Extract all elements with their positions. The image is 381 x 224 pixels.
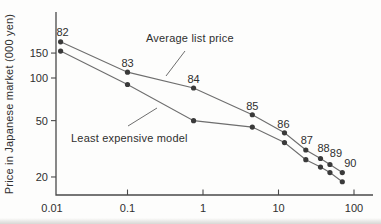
year-label-85: 85 bbox=[246, 100, 258, 112]
x-tick-label: 1 bbox=[200, 202, 206, 214]
data-point-82-average bbox=[58, 39, 63, 44]
year-label-87: 87 bbox=[301, 134, 313, 146]
series-line-average-list-price bbox=[61, 42, 343, 173]
leader-average-list-price bbox=[166, 51, 185, 76]
x-tick-label: 10 bbox=[272, 202, 284, 214]
year-label-90: 90 bbox=[344, 157, 356, 169]
data-point-90-least bbox=[340, 179, 345, 184]
data-point-85-least bbox=[250, 125, 255, 130]
data-point-90-average bbox=[340, 170, 345, 175]
x-tick-label: 0.1 bbox=[120, 202, 135, 214]
data-point-88-average bbox=[318, 156, 323, 161]
data-point-86-average bbox=[282, 130, 287, 135]
x-tick-label: 100 bbox=[345, 202, 363, 214]
x-tick-label: 0.01 bbox=[41, 202, 62, 214]
data-point-86-least bbox=[282, 140, 287, 145]
data-point-87-average bbox=[303, 147, 308, 152]
y-tick-label: 150 bbox=[30, 47, 48, 59]
data-point-83-least bbox=[125, 82, 130, 87]
leader-least-expensive-model bbox=[128, 108, 157, 126]
data-point-82-least bbox=[58, 48, 63, 53]
price-experience-curve-figure: Price in Japanese market (000 yen) 15010… bbox=[0, 0, 381, 224]
y-tick-label: 100 bbox=[30, 72, 48, 84]
year-label-88: 88 bbox=[317, 142, 329, 154]
data-point-84-least bbox=[191, 118, 196, 123]
year-label-89: 89 bbox=[330, 147, 342, 159]
year-label-83: 83 bbox=[121, 57, 133, 69]
series-line-least-expensive-model bbox=[61, 51, 343, 182]
year-label-84: 84 bbox=[187, 73, 199, 85]
data-point-89-average bbox=[327, 162, 332, 167]
annotation-average-list-price: Average list price bbox=[146, 32, 234, 44]
data-point-89-least bbox=[327, 170, 332, 175]
annotation-least-expensive-model: Least expensive model bbox=[71, 132, 188, 144]
year-label-82: 82 bbox=[56, 26, 68, 38]
data-point-88-least bbox=[318, 164, 323, 169]
data-point-84-average bbox=[191, 85, 196, 90]
data-point-85-average bbox=[250, 112, 255, 117]
y-tick-label: 20 bbox=[36, 171, 48, 183]
y-tick-label: 50 bbox=[36, 115, 48, 127]
data-point-87-least bbox=[303, 157, 308, 162]
year-label-86: 86 bbox=[277, 118, 289, 130]
data-point-83-average bbox=[125, 70, 130, 75]
